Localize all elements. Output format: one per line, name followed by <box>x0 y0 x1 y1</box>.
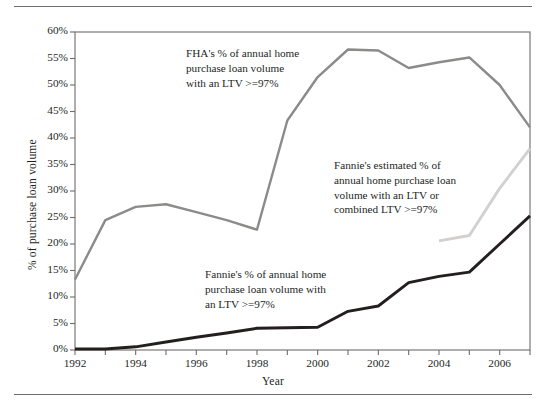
y-axis-tick-label: 15% <box>30 263 68 275</box>
annotation-fannie: Fannie's % of annual home purchase loan … <box>205 267 326 311</box>
y-axis-tick-label: 20% <box>30 236 68 248</box>
x-axis-tick-label: 1994 <box>111 357 161 369</box>
x-axis-tick-label: 2000 <box>293 357 343 369</box>
y-axis-tick-label: 55% <box>30 51 68 63</box>
y-axis-tick-label: 30% <box>30 183 68 195</box>
x-axis-tick-label: 1992 <box>50 357 100 369</box>
y-axis-tick-label: 40% <box>30 130 68 142</box>
y-axis-tick-label: 5% <box>30 316 68 328</box>
y-axis-tick-label: 35% <box>30 157 68 169</box>
figure-container: % of purchase loan volume Year FHA's % o… <box>0 0 546 405</box>
x-axis-tick-label: 1996 <box>171 357 221 369</box>
x-axis-tick-label: 2002 <box>353 357 403 369</box>
x-axis-title: Year <box>0 375 546 387</box>
y-axis-tick-label: 10% <box>30 289 68 301</box>
series-line-1 <box>75 49 530 279</box>
y-axis-tick-label: 60% <box>30 24 68 36</box>
y-axis-tick-label: 50% <box>30 77 68 89</box>
y-axis-tick-label: 45% <box>30 104 68 116</box>
y-axis-tick-label: 0% <box>30 342 68 354</box>
x-axis-tick-label: 1998 <box>232 357 282 369</box>
x-axis-tick-label: 2004 <box>414 357 464 369</box>
y-axis-tick-label: 25% <box>30 210 68 222</box>
annotation-fha: FHA's % of annual home purchase loan vol… <box>186 46 299 90</box>
x-axis-tick-label: 2006 <box>475 357 525 369</box>
annotation-fannie-estimated: Fannie's estimated % of annual home purc… <box>334 158 456 217</box>
